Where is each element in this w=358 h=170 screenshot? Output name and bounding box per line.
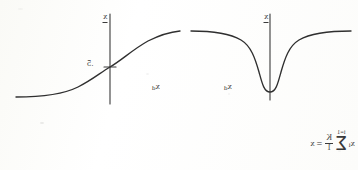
- formula-summation: i=1 Σ K: [334, 129, 349, 158]
- x-axis-label-right: xd: [224, 82, 232, 92]
- inverted-bell-curve: [191, 31, 351, 92]
- top-axis-label-xbar-right: x: [264, 12, 269, 23]
- formula-lhs-base: x: [351, 138, 356, 148]
- sigmoid-plot-svg: [0, 0, 185, 112]
- formula-lhs-sub: i: [349, 141, 351, 148]
- x-axis-label-left: xd: [152, 82, 160, 92]
- formula-equals-sign: =: [315, 138, 325, 149]
- xbar-glyph-right: x: [264, 12, 269, 23]
- formula-mean-equation: xi i=1 Σ K K 1 = x: [243, 122, 355, 164]
- scan-speckle: [40, 122, 44, 124]
- tick-label-half-left: .5: [87, 59, 93, 68]
- formula-lhs: xi: [349, 138, 355, 148]
- figure-inverted-bell-plot: [185, 0, 358, 112]
- formula-fraction-denominator: 1: [325, 144, 333, 152]
- formula-fraction: K 1: [324, 134, 334, 152]
- x-axis-label-right-base: x: [228, 81, 233, 91]
- figure-sigmoid-plot: [0, 0, 185, 112]
- inverted-bell-plot-svg: [185, 0, 358, 112]
- x-axis-label-left-base: x: [156, 81, 161, 91]
- formula-sigma-symbol: Σ: [335, 135, 348, 152]
- x-axis-label-left-sub: d: [152, 84, 156, 92]
- x-axis-label-right-sub: d: [224, 84, 228, 92]
- top-axis-label-xbar-left: x: [103, 12, 108, 23]
- formula-rhs: x: [310, 138, 315, 148]
- xbar-glyph-left: x: [103, 12, 108, 23]
